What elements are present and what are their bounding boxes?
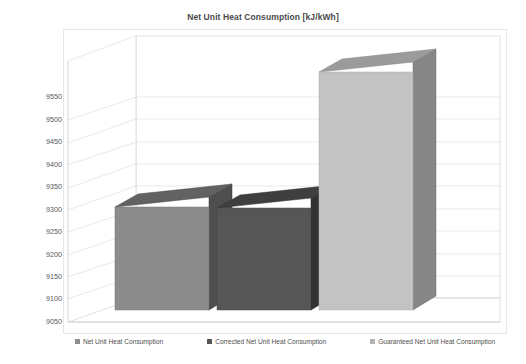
legend-item-corrected-net-unit-heat-consumption[interactable]: Corrected Net Unit Heat Consumption [207, 338, 326, 345]
y-tick-label: 9200 [46, 250, 62, 259]
y-tick-label: 9100 [46, 294, 62, 303]
chart-plot-svg: 9550 9500 9450 9400 9350 9300 9250 9200 … [0, 0, 526, 364]
bar-guaranteed-net-unit-heat-consumption[interactable] [319, 49, 436, 310]
legend-label: Net Unit Heat Consumption [83, 338, 163, 345]
bar-front-face [319, 72, 413, 310]
legend-item-net-unit-heat-consumption[interactable]: Net Unit Heat Consumption [75, 338, 163, 345]
legend-label: Guaranteed Net Unit Heat Consumption [378, 338, 495, 345]
y-tick-label: 9350 [46, 182, 62, 191]
chart-legend: Net Unit Heat Consumption Corrected Net … [63, 333, 507, 349]
legend-label: Corrected Net Unit Heat Consumption [215, 338, 326, 345]
y-tick-label: 9450 [46, 137, 62, 146]
y-tick-label: 9250 [46, 227, 62, 236]
legend-item-guaranteed-net-unit-heat-consumption[interactable]: Guaranteed Net Unit Heat Consumption [370, 338, 495, 345]
y-tick-labels: 9550 9500 9450 9400 9350 9300 9250 9200 … [46, 92, 62, 326]
bar-side-face [413, 49, 436, 310]
y-tick-label: 9050 [46, 317, 62, 326]
bar-front-face [217, 208, 311, 310]
legend-swatch-icon [207, 339, 212, 344]
bar-front-face [115, 207, 209, 310]
y-tick-label: 9500 [46, 115, 62, 124]
chart-container: Net Unit Heat Consumption [kJ/kWh] [0, 0, 526, 364]
legend-swatch-icon [75, 339, 80, 344]
y-tick-label: 9300 [46, 205, 62, 214]
legend-swatch-icon [370, 339, 375, 344]
y-tick-label: 9150 [46, 272, 62, 281]
y-tick-label: 9550 [46, 92, 62, 101]
y-tick-label: 9400 [46, 160, 62, 169]
